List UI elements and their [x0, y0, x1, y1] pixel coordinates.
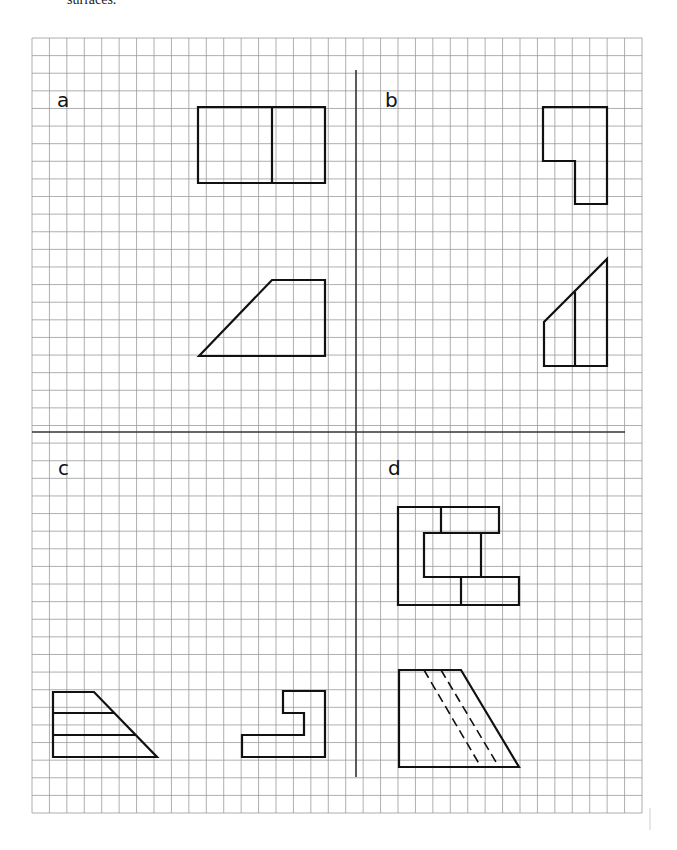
view-b-top [543, 107, 607, 204]
outline [53, 692, 157, 757]
outline [543, 107, 607, 204]
view-c-left [53, 692, 157, 757]
view-d-bottom [399, 670, 519, 767]
grid-paper [32, 38, 642, 813]
outline [199, 280, 325, 356]
panel-label-d: d [388, 456, 401, 480]
outline [198, 107, 325, 183]
outline [242, 691, 325, 757]
panel-labels: a b c d [57, 88, 401, 480]
outline [399, 670, 519, 767]
orthographic-views [53, 107, 607, 767]
panel-label-b: b [385, 88, 398, 112]
panel-label-a: a [57, 88, 69, 112]
drawing-sheet: a b c d [0, 0, 677, 850]
view-a-bottom [199, 280, 325, 356]
panel-label-c: c [58, 456, 69, 480]
view-b-bottom [544, 259, 607, 366]
view-d-top [398, 507, 519, 605]
view-c-right [242, 691, 325, 757]
view-a-top [198, 107, 325, 183]
outline [398, 507, 519, 605]
